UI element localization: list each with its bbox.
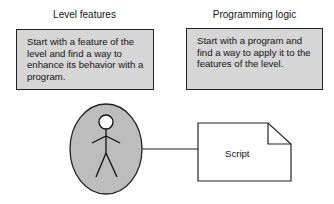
script-label: Script — [225, 148, 250, 159]
diagram-canvas — [0, 0, 334, 204]
